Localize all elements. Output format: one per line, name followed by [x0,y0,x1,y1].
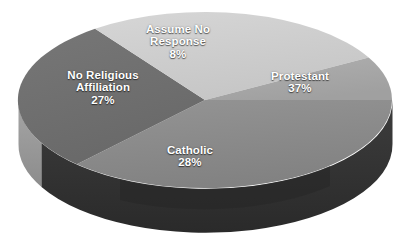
pie-top-face [18,12,392,188]
pie-chart: Protestant 37% Catholic 28% No Religious… [0,0,411,248]
pie-chart-graphic [0,0,411,248]
